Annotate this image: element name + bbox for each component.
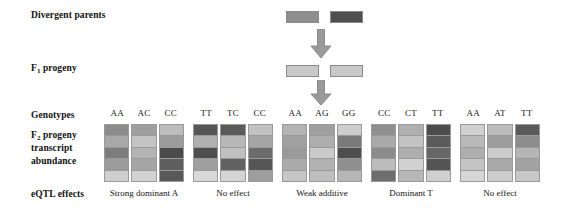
arrow-f1-to-f2 — [308, 80, 334, 106]
heatmap-cell — [160, 136, 183, 147]
genotype-group-1: AAACCCStrong dominant A — [104, 124, 184, 182]
heatmap-cell — [488, 148, 511, 159]
heatmap-cell — [338, 171, 361, 181]
transcript-abundance-heatmap — [460, 124, 540, 182]
arrow-parents-to-f1 — [308, 29, 334, 59]
f1-swatch-1 — [286, 65, 319, 77]
heatmap-cell — [310, 136, 333, 147]
label-divergent-parents: Divergent parents — [31, 10, 106, 21]
heatmap-cell — [105, 136, 128, 147]
heatmap-cell — [160, 159, 183, 170]
genotype-label-ct-2: CT — [398, 108, 425, 118]
heatmap-cell — [221, 148, 244, 159]
transcript-abundance-heatmap — [371, 124, 451, 182]
heatmap-cell — [249, 136, 272, 147]
eqtl-effect-label: Strong dominant A — [104, 188, 184, 198]
genotype-label-ac-2: AC — [131, 108, 158, 118]
heatmap-cell — [461, 171, 484, 181]
heatmap-cell — [132, 125, 155, 136]
heatmap-cell — [461, 159, 484, 170]
heatmap-cell — [283, 159, 306, 170]
heatmap-column-2 — [309, 124, 334, 182]
heatmap-cell — [132, 148, 155, 159]
heatmap-cell — [105, 159, 128, 170]
genotype-header-row: AAATTT — [460, 108, 540, 118]
heatmap-column-2 — [131, 124, 156, 182]
label-f2-transcript: transcript — [31, 143, 73, 154]
label-f2-abundance: abundance — [31, 156, 76, 167]
label-f1-progeny: F1 progeny — [31, 63, 77, 75]
transcript-abundance-heatmap — [193, 124, 273, 182]
heatmap-cell — [399, 125, 422, 136]
genotype-label-tt-3: TT — [424, 108, 451, 118]
genotype-label-aa-1: AA — [104, 108, 131, 118]
heatmap-cell — [194, 125, 217, 136]
heatmap-cell — [249, 171, 272, 181]
label-f1-subscript: 1 — [37, 67, 41, 75]
heatmap-cell — [194, 159, 217, 170]
heatmap-cell — [427, 159, 450, 170]
heatmap-cell — [249, 148, 272, 159]
genotype-label-gg-3: GG — [335, 108, 362, 118]
heatmap-cell — [249, 125, 272, 136]
heatmap-cell — [338, 148, 361, 159]
heatmap-cell — [488, 171, 511, 181]
heatmap-cell — [283, 136, 306, 147]
heatmap-cell — [194, 136, 217, 147]
heatmap-cell — [310, 159, 333, 170]
heatmap-cell — [488, 125, 511, 136]
heatmap-cell — [399, 148, 422, 159]
heatmap-cell — [338, 159, 361, 170]
label-f2-subscript: 2 — [37, 134, 41, 142]
heatmap-cell — [221, 159, 244, 170]
heatmap-cell — [488, 159, 511, 170]
heatmap-column-3 — [515, 124, 540, 182]
heatmap-cell — [194, 171, 217, 181]
genotype-label-tt-3: TT — [513, 108, 540, 118]
heatmap-cell — [427, 171, 450, 181]
heatmap-cell — [283, 125, 306, 136]
genotype-label-aa-1: AA — [282, 108, 309, 118]
parent-swatch-1 — [286, 11, 319, 23]
transcript-abundance-heatmap — [282, 124, 362, 182]
genotype-header-row: AAAGGG — [282, 108, 362, 118]
heatmap-column-3 — [426, 124, 451, 182]
genotype-label-ag-2: AG — [309, 108, 336, 118]
heatmap-cell — [105, 125, 128, 136]
heatmap-cell — [132, 159, 155, 170]
heatmap-cell — [372, 125, 395, 136]
label-eqtl-effects: eQTL effects — [31, 189, 84, 200]
label-f2-progeny: F2 progeny — [31, 130, 77, 142]
genotype-group-3: AAAGGGWeak additive — [282, 124, 362, 182]
heatmap-cell — [427, 136, 450, 147]
heatmap-cell — [249, 159, 272, 170]
heatmap-cell — [399, 159, 422, 170]
label-f1-suffix: progeny — [41, 63, 77, 73]
heatmap-column-1 — [460, 124, 485, 182]
heatmap-cell — [427, 125, 450, 136]
heatmap-column-1 — [193, 124, 218, 182]
heatmap-cell — [132, 136, 155, 147]
heatmap-column-2 — [220, 124, 245, 182]
genotype-header-row: TTTCCC — [193, 108, 273, 118]
eqtl-effect-label: No effect — [193, 188, 273, 198]
heatmap-cell — [310, 171, 333, 181]
heatmap-column-3 — [248, 124, 273, 182]
eqtl-effect-label: Dominant T — [371, 188, 451, 198]
genotype-group-5: AAATTTNo effect — [460, 124, 540, 182]
heatmap-cell — [372, 159, 395, 170]
genotype-label-cc-1: CC — [371, 108, 398, 118]
transcript-abundance-heatmap — [104, 124, 184, 182]
heatmap-cell — [105, 148, 128, 159]
heatmap-cell — [516, 148, 539, 159]
heatmap-cell — [372, 136, 395, 147]
heatmap-cell — [427, 148, 450, 159]
heatmap-cell — [283, 148, 306, 159]
heatmap-column-3 — [337, 124, 362, 182]
heatmap-cell — [283, 171, 306, 181]
genotype-label-at-2: AT — [487, 108, 514, 118]
heatmap-cell — [160, 148, 183, 159]
heatmap-cell — [221, 171, 244, 181]
heatmap-cell — [160, 171, 183, 181]
heatmap-cell — [399, 136, 422, 147]
